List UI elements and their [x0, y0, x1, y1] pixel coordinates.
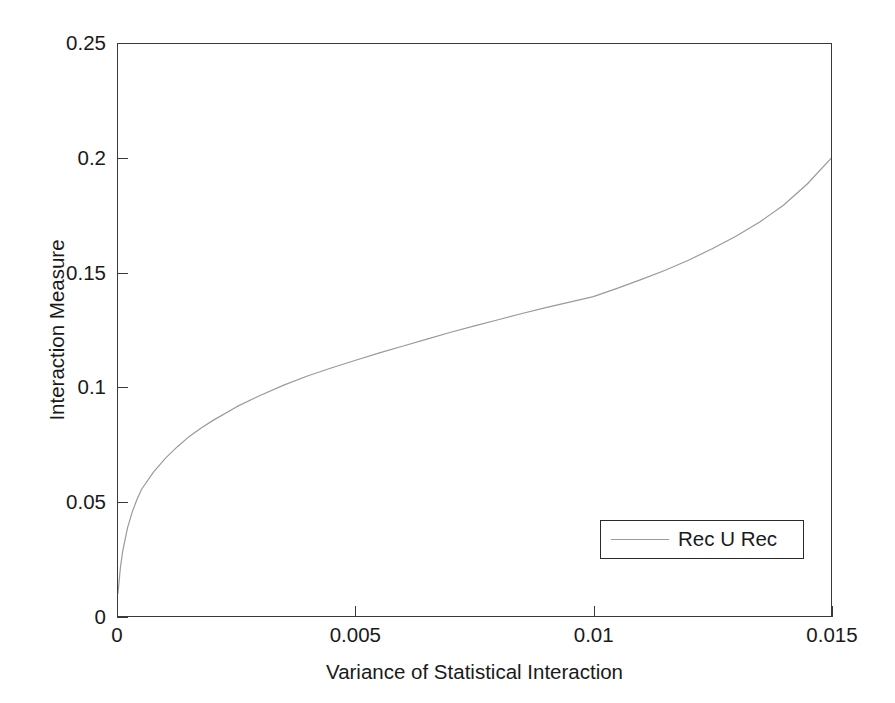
- y-tick-015: [117, 273, 128, 274]
- y-tick-02: [117, 158, 128, 159]
- y-tick-0: [117, 617, 128, 618]
- legend-item-label: Rec U Rec: [678, 529, 777, 550]
- x-tick-0: [117, 606, 118, 617]
- y-tick-005: [117, 502, 128, 503]
- figure-canvas: 0 0.05 0.1 0.15 0.2 0.25 0 0.005 0.01 0.…: [0, 0, 895, 703]
- x-axis-label: Variance of Statistical Interaction: [117, 662, 832, 683]
- legend-line-icon: [611, 539, 669, 540]
- y-tick-01: [117, 387, 128, 388]
- x-ticklabel-0005: 0.005: [330, 625, 381, 646]
- y-tick-025: [117, 43, 128, 44]
- legend-item-rec-u-rec: Rec U Rec: [611, 529, 777, 550]
- legend-box: Rec U Rec: [600, 520, 804, 559]
- x-ticklabel-0015: 0.015: [806, 625, 857, 646]
- x-tick-0005: [355, 606, 356, 617]
- x-tick-001: [594, 606, 595, 617]
- x-tick-0015: [832, 606, 833, 617]
- x-ticklabel-0: 0: [111, 625, 122, 646]
- y-axis-label: Interaction Measure: [40, 43, 74, 617]
- x-ticklabel-001: 0.01: [574, 625, 614, 646]
